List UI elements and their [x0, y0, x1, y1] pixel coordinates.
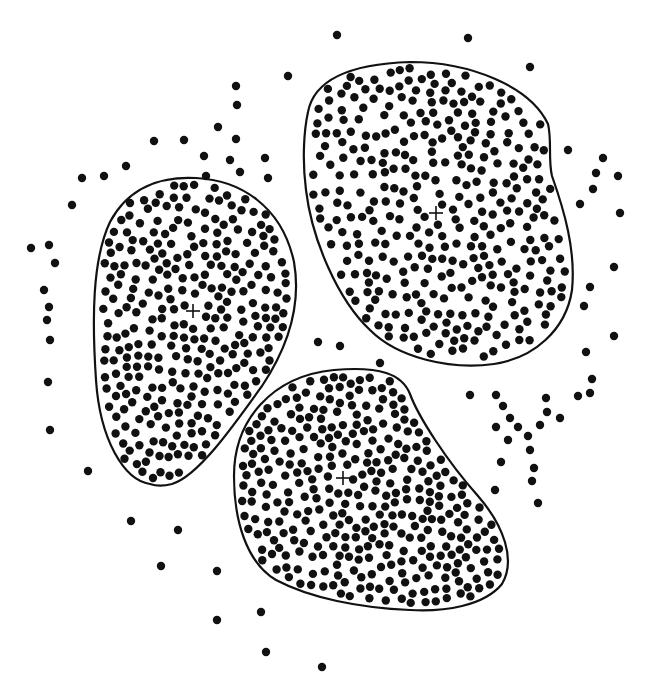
data-point — [173, 431, 181, 439]
data-point — [339, 116, 347, 124]
data-point — [212, 240, 220, 248]
data-point — [134, 340, 142, 348]
data-point — [116, 382, 124, 390]
data-point — [339, 373, 347, 381]
data-point — [102, 384, 110, 392]
data-point — [101, 373, 109, 381]
data-point — [356, 157, 364, 165]
data-point — [382, 197, 390, 205]
data-point — [468, 110, 476, 118]
data-point — [466, 136, 474, 144]
data-point — [301, 493, 309, 501]
data-point — [493, 159, 501, 167]
data-point — [350, 93, 358, 101]
data-point — [132, 259, 140, 267]
data-point — [112, 370, 120, 378]
data-point — [401, 151, 409, 159]
outlier-point — [264, 174, 272, 182]
data-point — [187, 419, 195, 427]
data-point — [285, 573, 293, 581]
data-point — [180, 182, 188, 190]
data-point — [258, 546, 266, 554]
data-point — [237, 306, 245, 314]
data-point — [120, 261, 128, 269]
data-point — [301, 516, 309, 524]
data-point — [423, 447, 431, 455]
data-point — [123, 363, 131, 371]
data-point — [512, 264, 520, 272]
data-point — [392, 148, 400, 156]
data-point — [139, 299, 147, 307]
data-point — [437, 552, 445, 560]
data-point — [357, 573, 365, 581]
data-point — [430, 80, 438, 88]
data-point — [154, 354, 162, 362]
data-point — [523, 175, 531, 183]
data-point — [457, 87, 465, 95]
data-point — [350, 566, 358, 574]
data-point — [403, 495, 411, 503]
data-point — [263, 404, 271, 412]
data-point — [456, 545, 464, 553]
data-point — [136, 219, 144, 227]
data-point — [467, 164, 475, 172]
data-point — [403, 476, 411, 484]
data-point — [496, 198, 504, 206]
data-point — [391, 126, 399, 134]
data-point — [244, 525, 252, 533]
data-point — [376, 510, 384, 518]
data-point — [396, 199, 404, 207]
data-point — [325, 384, 333, 392]
data-point — [180, 301, 188, 309]
data-point — [121, 329, 129, 337]
data-point — [338, 106, 346, 114]
data-point — [190, 335, 198, 343]
data-point — [182, 194, 190, 202]
data-point — [260, 242, 268, 250]
data-point — [490, 536, 498, 544]
data-point — [446, 310, 454, 318]
data-point — [337, 271, 345, 279]
data-point — [391, 410, 399, 418]
data-point — [470, 217, 478, 225]
data-point — [381, 240, 389, 248]
data-point — [381, 168, 389, 176]
data-point — [540, 146, 548, 154]
data-point — [353, 440, 361, 448]
data-point — [422, 117, 430, 125]
data-point — [207, 284, 215, 292]
data-point — [238, 268, 246, 276]
data-point — [325, 499, 333, 507]
data-point — [426, 461, 434, 469]
data-point — [309, 570, 317, 578]
data-point — [298, 459, 306, 467]
data-point — [425, 228, 433, 236]
data-point — [269, 481, 277, 489]
data-point — [542, 310, 550, 318]
data-point — [470, 233, 478, 241]
data-point — [135, 441, 143, 449]
data-point — [112, 413, 120, 421]
data-point — [481, 296, 489, 304]
data-point — [475, 83, 483, 91]
data-point — [202, 313, 210, 321]
cluster-bottom-centroid-icon — [336, 471, 350, 485]
data-point — [119, 439, 127, 447]
data-point — [114, 281, 122, 289]
data-point — [272, 303, 280, 311]
data-point — [336, 383, 344, 391]
data-point — [420, 279, 428, 287]
data-point — [316, 392, 324, 400]
data-point — [223, 298, 231, 306]
data-point — [448, 79, 456, 87]
data-point — [336, 171, 344, 179]
data-point — [262, 314, 270, 322]
data-point — [386, 87, 394, 95]
data-point — [355, 386, 363, 394]
data-point — [158, 314, 166, 322]
data-point — [326, 161, 334, 169]
data-point — [400, 111, 408, 119]
data-point — [138, 468, 146, 476]
data-point — [505, 129, 513, 137]
data-point — [369, 170, 377, 178]
